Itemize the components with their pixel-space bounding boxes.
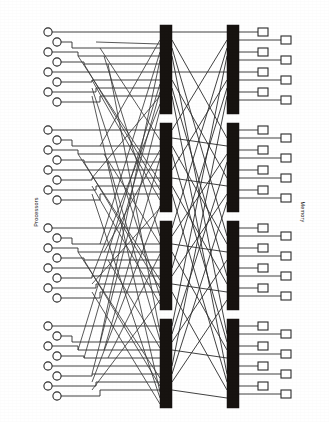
- processor-node[interactable]: [44, 88, 52, 96]
- processor-node[interactable]: [44, 126, 52, 134]
- processor-node[interactable]: [44, 342, 52, 350]
- processor-node[interactable]: [53, 196, 61, 204]
- memory-module[interactable]: [258, 342, 268, 350]
- memory-module[interactable]: [258, 362, 268, 370]
- processor-node[interactable]: [44, 322, 52, 330]
- processor-node[interactable]: [44, 284, 52, 292]
- memory-module[interactable]: [281, 76, 291, 84]
- stage2-switch-bars: [227, 25, 239, 408]
- processor-node[interactable]: [53, 372, 61, 380]
- memory-module[interactable]: [258, 68, 268, 76]
- processor-node[interactable]: [44, 68, 52, 76]
- memory-module[interactable]: [281, 36, 291, 44]
- processor-node[interactable]: [44, 382, 52, 390]
- left-axis-label-group: Processors: [33, 197, 39, 227]
- memory-module[interactable]: [281, 96, 291, 104]
- processor-node[interactable]: [53, 156, 61, 164]
- diagram-canvas: Processors Memory: [0, 0, 329, 422]
- right-axis-label-group: Memory: [300, 202, 306, 223]
- processor-node[interactable]: [44, 48, 52, 56]
- memory-module[interactable]: [258, 264, 268, 272]
- switch-bar-stage2-3[interactable]: [227, 221, 239, 310]
- stage1-switch-bars: [160, 25, 172, 408]
- memory-module[interactable]: [281, 370, 291, 378]
- memory-nodes: [258, 28, 291, 398]
- processor-node[interactable]: [44, 362, 52, 370]
- memory-module[interactable]: [281, 232, 291, 240]
- processor-node[interactable]: [53, 78, 61, 86]
- memory-module[interactable]: [281, 154, 291, 162]
- processor-node[interactable]: [53, 294, 61, 302]
- processor-node[interactable]: [53, 352, 61, 360]
- memory-module[interactable]: [258, 224, 268, 232]
- switch-bar-stage1-4[interactable]: [160, 319, 172, 408]
- switch-bar-stage1-1[interactable]: [160, 25, 172, 114]
- memory-module[interactable]: [281, 134, 291, 142]
- processor-node[interactable]: [53, 136, 61, 144]
- memory-module[interactable]: [281, 330, 291, 338]
- processor-node[interactable]: [53, 58, 61, 66]
- processor-node[interactable]: [53, 254, 61, 262]
- switch-bar-stage1-3[interactable]: [160, 221, 172, 310]
- memory-module[interactable]: [258, 284, 268, 292]
- processor-node[interactable]: [44, 244, 52, 252]
- memory-module[interactable]: [258, 146, 268, 154]
- stage2-shuffle-wires: [172, 32, 227, 398]
- memory-module[interactable]: [281, 174, 291, 182]
- memory-stub-wires: [239, 32, 281, 394]
- memory-module[interactable]: [258, 126, 268, 134]
- processor-node[interactable]: [44, 166, 52, 174]
- memory-module[interactable]: [281, 272, 291, 280]
- switch-bar-stage1-2[interactable]: [160, 123, 172, 212]
- processor-node[interactable]: [44, 224, 52, 232]
- processor-node[interactable]: [53, 274, 61, 282]
- processor-node[interactable]: [44, 186, 52, 194]
- processor-nodes: [44, 28, 61, 400]
- processors-label: Processors: [33, 197, 39, 227]
- memory-module[interactable]: [281, 292, 291, 300]
- processor-node[interactable]: [44, 264, 52, 272]
- memory-module[interactable]: [258, 244, 268, 252]
- memory-module[interactable]: [258, 382, 268, 390]
- memory-module[interactable]: [281, 56, 291, 64]
- processor-node[interactable]: [53, 38, 61, 46]
- memory-module[interactable]: [281, 252, 291, 260]
- processor-node[interactable]: [44, 28, 52, 36]
- switch-bar-stage2-2[interactable]: [227, 123, 239, 212]
- memory-label: Memory: [300, 202, 306, 223]
- processor-node[interactable]: [53, 234, 61, 242]
- switch-bar-stage2-1[interactable]: [227, 25, 239, 114]
- memory-module[interactable]: [281, 194, 291, 202]
- processor-node[interactable]: [53, 392, 61, 400]
- processor-node[interactable]: [44, 146, 52, 154]
- stage1-shuffle-wires: [78, 40, 160, 404]
- memory-module[interactable]: [258, 186, 268, 194]
- memory-module[interactable]: [281, 390, 291, 398]
- processor-node[interactable]: [53, 98, 61, 106]
- memory-module[interactable]: [258, 88, 268, 96]
- processor-node[interactable]: [53, 332, 61, 340]
- switch-bar-stage2-4[interactable]: [227, 319, 239, 408]
- memory-module[interactable]: [258, 48, 268, 56]
- processor-node[interactable]: [53, 176, 61, 184]
- memory-module[interactable]: [281, 350, 291, 358]
- memory-module[interactable]: [258, 166, 268, 174]
- memory-module[interactable]: [258, 28, 268, 36]
- memory-module[interactable]: [258, 322, 268, 330]
- network-diagram-svg: Processors Memory: [0, 0, 329, 422]
